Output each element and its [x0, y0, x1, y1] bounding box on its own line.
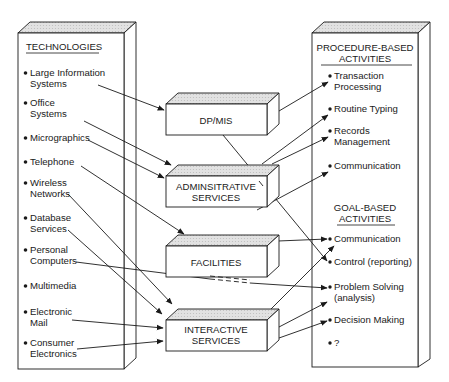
svg-text:Telephone: Telephone: [30, 156, 74, 167]
svg-text:Processing: Processing: [334, 81, 381, 92]
procedure-header-line1: PROCEDURE-BASED: [316, 42, 413, 53]
svg-text:Mail: Mail: [30, 317, 48, 328]
svg-text:Electronic: Electronic: [30, 306, 72, 317]
bullet-icon: [24, 136, 28, 140]
svg-text:Transaction: Transaction: [334, 70, 384, 81]
procedure-header-line2: ACTIVITIES: [339, 53, 391, 64]
svg-text:Wireless: Wireless: [30, 177, 67, 188]
box-facilities: FACILITIES: [166, 235, 279, 280]
technology-activity-diagram: TECHNOLOGIES Large Information Systems O…: [0, 0, 449, 382]
tech-item-micrographics: Micrographics: [24, 132, 90, 143]
box-interactive-services: INTERACTIVE SERVICES: [166, 309, 279, 351]
svg-text:Management: Management: [334, 136, 390, 147]
svg-text:Multimedia: Multimedia: [30, 280, 77, 291]
svg-text:?: ?: [334, 337, 339, 348]
bullet-icon: [24, 101, 28, 105]
technologies-header: TECHNOLOGIES: [26, 41, 102, 52]
svg-text:Consumer: Consumer: [30, 337, 75, 348]
box-interactive-label-line1: INTERACTIVE: [184, 324, 247, 335]
bullet-icon: [328, 285, 331, 288]
activity-transaction-processing: Transaction Processing: [328, 70, 383, 92]
box-dpmis-label: DP/MIS: [199, 115, 232, 126]
technologies-panel-top: [18, 22, 136, 33]
box-facilities-label: FACILITIES: [191, 257, 242, 268]
svg-text:Computers: Computers: [30, 255, 77, 266]
tech-item-database-services: Database Services: [24, 212, 71, 234]
svg-text:Control (reporting): Control (reporting): [334, 256, 412, 267]
bullet-icon: [24, 216, 28, 220]
svg-text:Micrographics: Micrographics: [30, 132, 90, 143]
tech-item-consumer-electronics: Consumer Electronics: [24, 337, 77, 359]
bullet-icon: [328, 260, 331, 263]
svg-text:Services: Services: [30, 223, 67, 234]
svg-text:Routine Typing: Routine Typing: [334, 103, 398, 114]
box-dpmis: DP/MIS: [166, 93, 279, 135]
box-administrative-services: ADMINSITRATIVE SERVICES: [166, 165, 279, 207]
activity-communication-procedure: Communication: [328, 160, 400, 171]
svg-text:Database: Database: [30, 212, 71, 223]
activities-panel-top: [312, 22, 430, 33]
svg-text:Decision Making: Decision Making: [334, 314, 404, 325]
tech-item-wireless-networks: Wireless Networks: [24, 177, 70, 199]
bullet-icon: [328, 341, 331, 344]
tech-item-telephone: Telephone: [24, 156, 75, 167]
goal-header-line1: GOAL-BASED: [334, 202, 396, 213]
bullet-icon: [328, 164, 331, 167]
bullet-icon: [24, 248, 28, 252]
activities-panel: PROCEDURE-BASED ACTIVITIES Transaction P…: [312, 22, 430, 367]
activity-control-reporting: Control (reporting): [328, 256, 412, 267]
svg-text:Problem Solving: Problem Solving: [334, 281, 404, 292]
activity-decision-making: Decision Making: [328, 314, 404, 325]
bullet-icon: [24, 71, 28, 75]
bullet-icon: [24, 341, 28, 345]
bullet-icon: [24, 181, 28, 185]
box-admin-label-line2: SERVICES: [192, 192, 240, 203]
svg-text:Communication: Communication: [334, 233, 401, 244]
activity-communication-goal: Communication: [328, 233, 400, 244]
svg-text:Personal: Personal: [30, 244, 68, 255]
bullet-icon: [328, 107, 331, 110]
bullet-icon: [24, 160, 28, 164]
svg-text:Electronics: Electronics: [30, 348, 77, 359]
bullet-icon: [328, 237, 331, 240]
svg-text:Systems: Systems: [30, 108, 67, 119]
bullet-icon: [328, 318, 331, 321]
svg-text:Communication: Communication: [334, 160, 401, 171]
box-admin-label-line1: ADMINSITRATIVE: [176, 181, 256, 192]
activities-panel-side: [418, 22, 430, 367]
svg-text:Records: Records: [334, 125, 370, 136]
goal-header-line2: ACTIVITIES: [339, 213, 391, 224]
activity-routine-typing: Routine Typing: [328, 103, 398, 114]
svg-text:Office: Office: [30, 97, 55, 108]
svg-text:Systems: Systems: [30, 78, 67, 89]
svg-text:Networks: Networks: [30, 188, 70, 199]
tech-item-multimedia: Multimedia: [24, 280, 77, 291]
box-interactive-label-line2: SERVICES: [192, 335, 240, 346]
svg-text:Large Information: Large Information: [30, 67, 105, 78]
bullet-icon: [24, 310, 28, 314]
svg-text:(analysis): (analysis): [334, 292, 375, 303]
bullet-icon: [328, 129, 331, 132]
technologies-panel: TECHNOLOGIES Large Information Systems O…: [18, 22, 136, 369]
bullet-icon: [328, 74, 331, 77]
bullet-icon: [24, 284, 28, 288]
